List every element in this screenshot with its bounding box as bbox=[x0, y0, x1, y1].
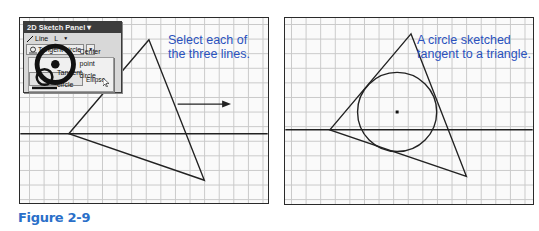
chevron-down-icon: ▾ bbox=[87, 23, 91, 32]
result-caption: A circle sketched tangent to a triangle. bbox=[417, 33, 532, 61]
circle-tool-dropdown-menu: Center point circle Tangent circle Ellip… bbox=[28, 57, 114, 92]
sketch-canvas-after: A circle sketched tangent to a triangle. bbox=[284, 17, 534, 205]
arrow-icon bbox=[178, 101, 231, 108]
menu-item-tangent-circle[interactable]: Tangent circle bbox=[29, 72, 83, 86]
menu-item-label: Tangent circle bbox=[57, 67, 82, 91]
mouse-cursor-icon bbox=[103, 78, 109, 87]
tangent-circle-icon bbox=[32, 66, 57, 91]
sketch-panel-title[interactable]: 2D Sketch Panel ▾ bbox=[24, 22, 121, 33]
instruction-caption: Select each of the three lines. bbox=[168, 33, 268, 61]
circle-center-point bbox=[396, 111, 399, 114]
sketch-canvas-before: Select each of the three lines. 2D Sketc… bbox=[19, 17, 269, 204]
sketch-panel-toolbar: 2D Sketch Panel ▾ Line L ▼ Tangent circl… bbox=[23, 21, 122, 93]
sketch-panel-title-text: 2D Sketch Panel bbox=[27, 23, 85, 32]
figure-label: Figure 2-9 bbox=[18, 210, 90, 225]
